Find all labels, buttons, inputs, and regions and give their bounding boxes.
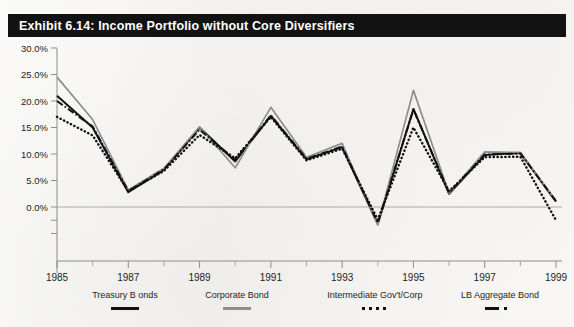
x-axis-tick-label: 1995 — [402, 272, 425, 283]
chart-series-line — [57, 117, 556, 220]
x-axis-tick-label: 1993 — [331, 272, 354, 283]
legend-swatch-dash-dot-icon — [410, 306, 574, 313]
x-axis-tick-label: 1985 — [46, 272, 69, 283]
chart-legend: Treasury B ondsCorporate BondIntermediat… — [0, 290, 574, 327]
x-axis-tick-label: 1999 — [545, 272, 568, 283]
x-axis-tick-label: 1991 — [260, 272, 283, 283]
chart-series-line — [57, 77, 556, 225]
chart-area: 30.0%25.0%20.0%15.0%10.0%5.0%0.0%1985198… — [0, 37, 574, 287]
x-axis-tick-label: 1997 — [474, 272, 497, 283]
x-axis-tick-label: 1987 — [117, 272, 140, 283]
x-axis-tick-label: 1989 — [188, 272, 211, 283]
y-axis-tick-label: 30.0% — [21, 43, 48, 54]
y-axis-tick-label: 5.0% — [26, 175, 48, 186]
legend-item: LB Aggregate Bond — [410, 290, 574, 313]
y-axis-tick-label: 0.0% — [26, 202, 48, 213]
y-axis-tick-label: 25.0% — [21, 69, 48, 80]
line-chart: 30.0%25.0%20.0%15.0%10.0%5.0%0.0%1985198… — [0, 37, 574, 287]
y-axis-tick-label: 20.0% — [21, 96, 48, 107]
legend-label: LB Aggregate Bond — [410, 290, 574, 301]
y-axis-tick-label: 10.0% — [21, 149, 48, 160]
cut-off-header-text — [186, 0, 574, 9]
y-axis-tick-label: 15.0% — [21, 122, 48, 133]
page-title: Exhibit 6.14: Income Portfolio without C… — [8, 19, 355, 33]
exhibit-title-bar: Exhibit 6.14: Income Portfolio without C… — [8, 14, 566, 37]
